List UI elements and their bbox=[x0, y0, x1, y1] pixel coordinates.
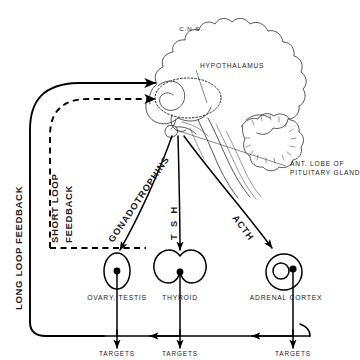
hormone-label-tsh: T S H bbox=[169, 205, 179, 240]
target-arrows bbox=[117, 330, 293, 348]
long-loop-feedback-label: LONG LOOP FEEDBACK bbox=[13, 186, 24, 310]
pituitary-label-line1: ANT. LOBE OF bbox=[290, 160, 344, 167]
short-loop-feedback-label: SHORT LOOP FEEDBACK bbox=[49, 174, 74, 243]
svg-text:SHORT LOOP: SHORT LOOP bbox=[49, 174, 60, 243]
gland-label-ovary-testis: OVARY, TESTIS bbox=[87, 294, 147, 301]
svg-text:FEEDBACK: FEEDBACK bbox=[63, 185, 74, 243]
diencephalon-anatomy bbox=[146, 81, 211, 137]
pituitary-label-line2: PITUITARY GLAND bbox=[290, 169, 360, 176]
neuroendocrine-feedback-diagram: C.N.S. HYPOTHALAMUS ANT. LOBE OF PITUITA… bbox=[0, 0, 360, 360]
gland-label-thyroid: THYROID bbox=[162, 294, 198, 301]
target-label-adrenal: TARGETS bbox=[275, 350, 311, 357]
hypothalamus-region bbox=[155, 78, 221, 118]
feedback-collector-bus bbox=[104, 324, 310, 336]
cerebrum-outline bbox=[149, 18, 306, 134]
hormone-label-gonadotrophins: GONADOTROPHINS bbox=[106, 154, 171, 244]
gland-thyroid bbox=[154, 250, 206, 336]
target-label-thyroid: TARGETS bbox=[162, 350, 198, 357]
cns-label: C.N.S. bbox=[179, 25, 203, 32]
hormone-arrow-acth bbox=[184, 136, 272, 248]
target-label-gonadal: TARGETS bbox=[99, 350, 135, 357]
hypothalamus-label: HYPOTHALAMUS bbox=[200, 62, 264, 69]
gland-label-adrenal-cortex: ADRENAL CORTEX bbox=[250, 294, 322, 301]
hormone-label-acth: ACTH bbox=[230, 213, 256, 242]
diagram-canvas: C.N.S. HYPOTHALAMUS ANT. LOBE OF PITUITA… bbox=[0, 0, 360, 360]
svg-text:LONG LOOP FEEDBACK: LONG LOOP FEEDBACK bbox=[13, 186, 24, 310]
